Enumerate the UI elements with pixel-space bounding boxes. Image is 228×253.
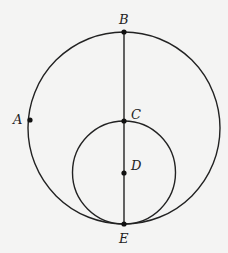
geometry-figure: A B C D E [0, 0, 228, 253]
point-D [121, 170, 126, 175]
label-E: E [118, 231, 129, 246]
point-B [121, 29, 126, 34]
label-C: C [131, 107, 141, 122]
label-D: D [130, 158, 142, 173]
label-B: B [118, 12, 129, 27]
point-A [27, 117, 32, 122]
label-A: A [12, 112, 22, 127]
point-E [121, 221, 126, 226]
point-C [121, 118, 126, 123]
